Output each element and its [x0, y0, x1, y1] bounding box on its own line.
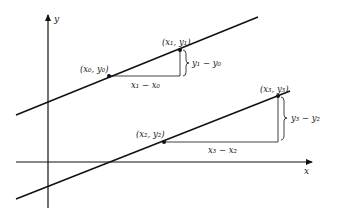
label-run-lower: x₃ − x₂: [208, 145, 238, 155]
label-rise-upper: y₁ − y₀: [191, 58, 222, 68]
x-axis-label: x: [304, 166, 309, 176]
point-x3y3: [276, 94, 280, 98]
label-x2y2: (x₂, y₂): [136, 129, 164, 139]
lower-line: [16, 91, 290, 199]
label-x3y3: (x₃, y₃): [260, 84, 288, 94]
label-run-upper: x₁ − x₀: [131, 80, 161, 90]
brace-lower: [281, 97, 287, 140]
label-rise-lower: y₃ − y₂: [290, 113, 321, 123]
point-x1y1: [178, 48, 182, 52]
diagram-canvas: y x (x₀, y₀) (x₁, y₁) x₁ − x₀ y₁ − y₀ (x…: [0, 0, 337, 213]
point-x0y0: [107, 74, 111, 78]
brace-upper: [183, 50, 189, 76]
point-x2y2: [162, 140, 166, 144]
y-axis-label: y: [53, 14, 60, 24]
label-x1y1: (x₁, y₁): [162, 37, 190, 47]
upper-line: [16, 17, 258, 115]
label-x0y0: (x₀, y₀): [80, 64, 108, 74]
